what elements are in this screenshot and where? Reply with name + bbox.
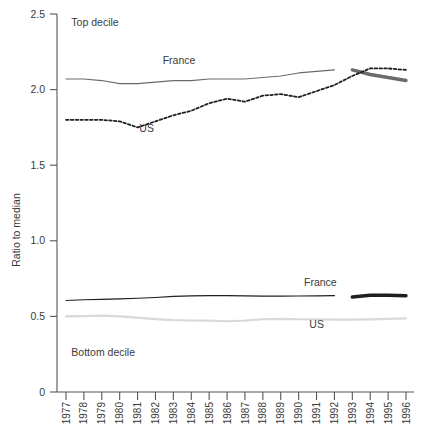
x-tick-label: 1992 — [329, 402, 340, 425]
y-axis-tick-labels: 00.51.01.52.02.5 — [30, 8, 45, 398]
series-line-top-decile-france-solid-thin — [66, 70, 334, 84]
y-axis-title: Ratio to median — [10, 193, 22, 267]
y-tick-label: 0 — [39, 386, 45, 398]
series-annotation-us: US — [309, 318, 324, 330]
x-tick-label: 1985 — [204, 402, 215, 425]
series-line-bottom-decile-us-solid-light — [66, 316, 406, 322]
x-tick-label: 1994 — [365, 402, 376, 425]
y-tick-label: 0.5 — [30, 310, 45, 322]
series-line-top-decile-france-solid-thick — [352, 70, 406, 81]
x-tick-label: 1986 — [222, 402, 233, 425]
x-tick-label: 1996 — [401, 402, 412, 425]
y-axis-ticks — [50, 14, 57, 392]
chart-container: 00.51.01.52.02.5 19771978197919801981198… — [0, 0, 423, 437]
series-annotation-us: US — [139, 122, 154, 134]
x-tick-label: 1989 — [275, 402, 286, 425]
y-tick-label: 2.0 — [30, 83, 45, 95]
x-tick-label: 1993 — [347, 402, 358, 425]
x-tick-label: 1995 — [383, 402, 394, 425]
series-line-bottom-decile-france-solid-thick — [352, 295, 406, 297]
x-tick-label: 1990 — [293, 402, 304, 425]
x-tick-label: 1987 — [240, 402, 251, 425]
ratio-to-median-line-chart: 00.51.01.52.02.5 19771978197919801981198… — [0, 0, 423, 437]
x-tick-label: 1983 — [168, 402, 179, 425]
series-lines — [66, 68, 406, 321]
series-annotation-france: France — [163, 54, 196, 66]
y-tick-label: 1.5 — [30, 159, 45, 171]
chart-annotations: Top decileBottom decileFranceUSFranceUS — [71, 16, 336, 358]
group-label-top-decile: Top decile — [71, 16, 118, 28]
x-tick-label: 1980 — [114, 402, 125, 425]
group-label-bottom-decile: Bottom decile — [71, 346, 135, 358]
x-tick-label: 1984 — [186, 402, 197, 425]
x-tick-label: 1979 — [96, 402, 107, 425]
x-tick-label: 1991 — [311, 402, 322, 425]
x-tick-label: 1981 — [132, 402, 143, 425]
y-tick-label: 1.0 — [30, 234, 45, 246]
series-line-bottom-decile-france-solid-thin — [66, 296, 334, 301]
y-tick-label: 2.5 — [30, 8, 45, 20]
series-line-top-decile-us-dotted — [66, 68, 406, 127]
series-annotation-france: France — [304, 276, 337, 288]
x-tick-label: 1982 — [150, 402, 161, 425]
x-axis-tick-labels: 1977197819791980198119821983198419851986… — [61, 402, 412, 425]
x-tick-label: 1977 — [61, 402, 72, 425]
x-tick-label: 1978 — [78, 402, 89, 425]
x-axis-ticks — [66, 392, 406, 400]
x-tick-label: 1988 — [257, 402, 268, 425]
